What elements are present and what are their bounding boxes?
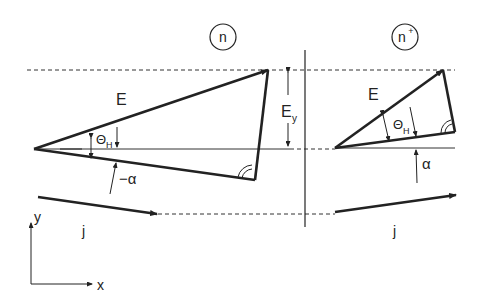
left-ey-side [255, 70, 268, 180]
left-right-angle-mark [238, 165, 252, 177]
coordinate-axes: y x [31, 209, 104, 293]
left-theta-sub: H [106, 140, 113, 150]
right-current-vector [335, 195, 456, 212]
left-e-vector [34, 70, 268, 149]
x-axis-label: x [97, 277, 104, 293]
y-axis-label: y [34, 209, 41, 225]
right-alpha-arrow [416, 150, 417, 183]
ey-label: E [281, 103, 292, 120]
right-theta-arrow [383, 115, 389, 141]
right-field-triangle [335, 70, 455, 148]
region-label-n: n [210, 24, 236, 50]
left-e-label: E [116, 91, 127, 108]
right-ey-side [443, 70, 455, 132]
right-right-angle-mark [441, 120, 451, 133]
left-alpha-label: −α [119, 170, 137, 187]
svg-text:n: n [398, 29, 406, 45]
right-e-label: E [368, 86, 379, 103]
right-theta-sub: H [403, 126, 410, 136]
ey-sub: y [292, 113, 297, 124]
left-ex-side [34, 149, 255, 180]
left-current-label: j [81, 223, 85, 239]
right-theta-label: Θ [393, 117, 403, 132]
left-theta-label: Θ [96, 132, 106, 147]
left-alpha-arrow [110, 163, 116, 194]
right-theta-arrow-2 [410, 107, 416, 136]
left-current-vector [38, 197, 157, 214]
right-current-label: j [392, 223, 396, 239]
hall-effect-diagram: n n + E Θ H −α E y E Θ H α j j [0, 0, 480, 299]
right-alpha-label: α [422, 155, 431, 172]
region-label-n-plus: n + [392, 24, 418, 50]
svg-text:+: + [408, 26, 413, 36]
left-field-triangle [34, 70, 268, 180]
svg-text:n: n [219, 29, 227, 45]
